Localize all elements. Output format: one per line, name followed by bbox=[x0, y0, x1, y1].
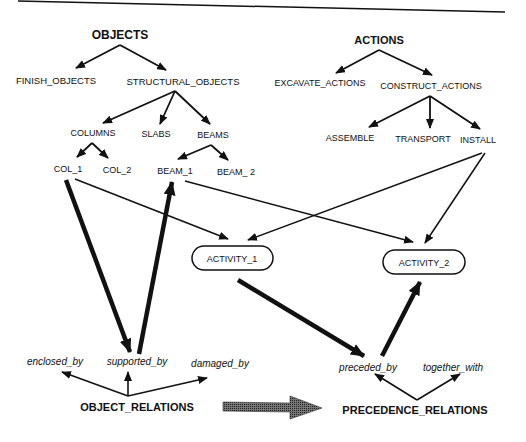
activity-2-label: ACTIVITY_2 bbox=[399, 258, 450, 268]
activity-1-label: ACTIVITY_1 bbox=[207, 254, 258, 264]
node-structural-objects: STRUCTURAL_OBJECTS bbox=[127, 76, 240, 87]
rel-preceded-by: preceded_by bbox=[338, 362, 398, 373]
object-relations: enclosed_by supported_by damaged_by OBJE… bbox=[27, 356, 250, 413]
node-slabs: SLABS bbox=[141, 129, 170, 139]
node-beam-2: BEAM_ 2 bbox=[217, 167, 255, 177]
precedence-relations: preceded_by together_with PRECEDENCE_REL… bbox=[338, 362, 488, 416]
objects-tree: OBJECTS FINISH_OBJECTS STRUCTURAL_OBJECT… bbox=[16, 28, 255, 177]
node-objects: OBJECTS bbox=[92, 28, 149, 42]
node-object-relations: OBJECT_RELATIONS bbox=[80, 401, 193, 413]
node-col-1: COL_1 bbox=[54, 164, 83, 174]
node-assemble: ASSEMBLE bbox=[326, 133, 375, 143]
rel-supported-by: supported_by bbox=[107, 356, 169, 367]
knowledge-diagram: OBJECTS FINISH_OBJECTS STRUCTURAL_OBJECT… bbox=[0, 0, 526, 442]
actions-tree: ACTIONS EXCAVATE_ACTIONS CONSTRUCT_ACTIO… bbox=[274, 34, 495, 145]
big-arrow-icon bbox=[223, 396, 322, 419]
node-precedence-relations: PRECEDENCE_RELATIONS bbox=[342, 404, 487, 416]
node-beam-1: BEAM_1 bbox=[157, 166, 193, 176]
thin-edges bbox=[75, 153, 485, 243]
rel-together-with: together_with bbox=[423, 362, 483, 373]
node-construct-actions: CONSTRUCT_ACTIONS bbox=[380, 81, 482, 91]
activity-1: ACTIVITY_1 bbox=[192, 246, 273, 270]
node-install: INSTALL bbox=[460, 135, 496, 145]
rel-damaged-by: damaged_by bbox=[191, 358, 250, 369]
node-transport: TRANSPORT bbox=[395, 134, 451, 144]
node-actions: ACTIONS bbox=[354, 34, 404, 46]
rel-enclosed-by: enclosed_by bbox=[27, 356, 84, 367]
top-rule bbox=[18, 1, 505, 12]
node-finish-objects: FINISH_OBJECTS bbox=[16, 75, 96, 86]
node-col-2: COL_2 bbox=[103, 165, 132, 175]
node-excavate-actions: EXCAVATE_ACTIONS bbox=[274, 78, 365, 88]
node-beams: BEAMS bbox=[197, 130, 229, 140]
activity-2: ACTIVITY_2 bbox=[383, 250, 465, 274]
node-columns: COLUMNS bbox=[70, 128, 115, 138]
